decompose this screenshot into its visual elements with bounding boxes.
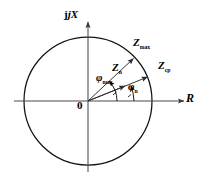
- label-vector-z-cp: Zcp: [158, 60, 170, 74]
- real-axis-label: R: [186, 92, 194, 104]
- label-vector-z-max: Zmax: [133, 37, 150, 51]
- imaginary-axis-label: jjX: [64, 9, 78, 20]
- impedance-circle-diagram: jjX R 0 Zmax Zcp Zn φmax φn: [0, 0, 205, 185]
- imaginary-axis-label-text: jX: [68, 8, 78, 20]
- vector-z-n: [88, 86, 125, 101]
- label-angle-phi-n: φn: [128, 81, 138, 95]
- diagram-canvas: [0, 0, 205, 185]
- label-z-n-subscript: n: [119, 69, 122, 75]
- label-z-n-symbol: Z: [112, 61, 119, 73]
- label-z-max-symbol: Z: [133, 36, 140, 48]
- label-phi-max-subscript: max: [102, 79, 112, 85]
- label-vector-z-n: Zn: [112, 62, 122, 76]
- label-z-cp-symbol: Z: [158, 59, 165, 71]
- label-z-cp-subscript: cp: [165, 67, 171, 73]
- origin-label: 0: [77, 100, 83, 111]
- label-z-max-subscript: max: [140, 44, 150, 50]
- label-phi-n-subscript: n: [134, 88, 137, 94]
- label-angle-phi-max: φmax: [96, 72, 113, 86]
